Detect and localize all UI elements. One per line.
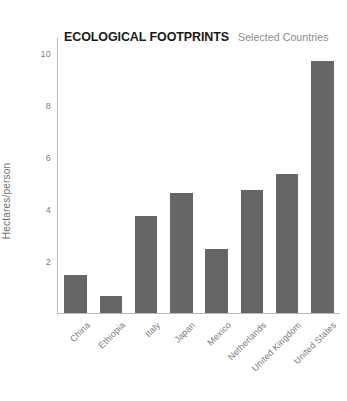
ecological-footprints-bar-chart: ECOLOGICAL FOOTPRINTS Selected Countries… bbox=[0, 0, 347, 401]
x-tick-label: Ethiopia bbox=[96, 320, 127, 351]
bar-slot bbox=[305, 38, 340, 313]
bar-slot bbox=[58, 38, 93, 313]
bar-slot bbox=[164, 38, 199, 313]
y-tick-label: 2 bbox=[46, 257, 57, 267]
bar-slot bbox=[129, 38, 164, 313]
x-tick-label: Mexico bbox=[205, 320, 233, 348]
x-tick-label: Japan bbox=[173, 320, 198, 345]
bar[interactable] bbox=[64, 275, 87, 313]
bar-series bbox=[58, 38, 340, 313]
plot-area: 246810 bbox=[57, 38, 340, 314]
bar[interactable] bbox=[100, 296, 123, 313]
bar-slot bbox=[199, 38, 234, 313]
x-axis-tick-labels: ChinaEthiopiaItalyJapanMexicoNetherlands… bbox=[58, 318, 340, 398]
x-tick-label: China bbox=[68, 320, 92, 344]
bar[interactable] bbox=[205, 249, 228, 313]
bar-slot bbox=[234, 38, 269, 313]
bar[interactable] bbox=[135, 216, 158, 313]
x-axis-line bbox=[57, 313, 340, 314]
x-tick-label: Italy bbox=[143, 320, 162, 339]
bar-slot bbox=[270, 38, 305, 313]
bar[interactable] bbox=[241, 190, 264, 313]
y-tick-label: 8 bbox=[46, 101, 57, 111]
bar[interactable] bbox=[276, 174, 299, 313]
y-tick-label: 10 bbox=[41, 49, 57, 59]
y-tick-label: 4 bbox=[46, 205, 57, 215]
bar[interactable] bbox=[170, 193, 193, 313]
y-tick-label: 6 bbox=[46, 153, 57, 163]
bar-slot bbox=[93, 38, 128, 313]
y-axis-title: Hectares/person bbox=[1, 162, 12, 238]
bar[interactable] bbox=[311, 61, 334, 313]
